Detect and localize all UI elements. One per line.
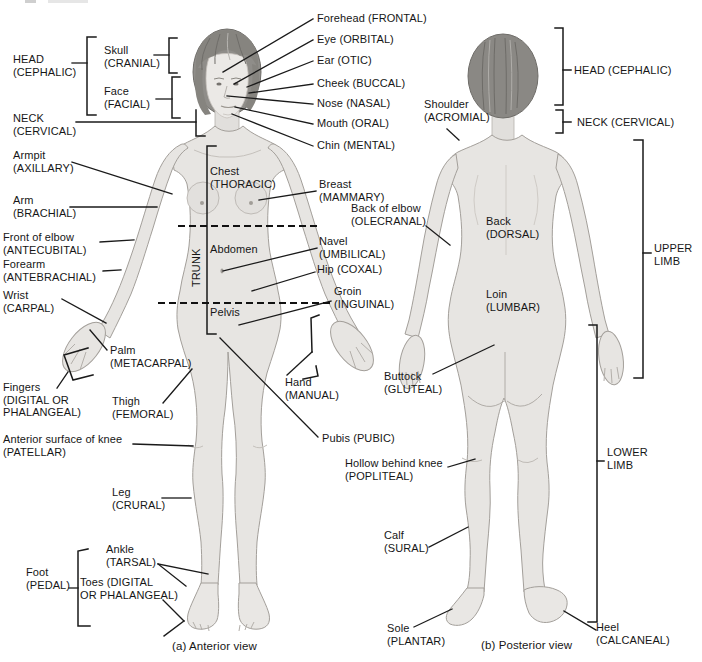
label-wrist-carpal: Wrist (CARPAL) — [3, 289, 54, 314]
label-armpit-axillary: Armpit (AXILLARY) — [13, 149, 74, 174]
label-trunk: TRUNK — [190, 249, 203, 287]
label-loin-lumbar: Loin (LUMBAR) — [486, 288, 540, 313]
label-neck-cervical: NECK (CERVICAL) — [13, 112, 76, 137]
label-chin-mental: Chin (MENTAL) — [317, 139, 395, 152]
label-upper-limb: UPPER LIMB — [654, 242, 692, 267]
label-navel-umbilical: Navel (UMBILICAL) — [319, 235, 386, 260]
trunk-divider-dashes — [158, 226, 332, 303]
label-fingers-digital: Fingers (DIGITAL OR PHALANGEAL) — [3, 381, 81, 419]
label-arm-brachial: Arm (BRACHIAL) — [13, 194, 76, 219]
label-skull-cranial: Skull (CRANIAL) — [104, 44, 160, 69]
label-hollow-behind-knee-popliteal: Hollow behind knee (POPLITEAL) — [345, 457, 443, 482]
label-thigh-femoral: Thigh (FEMORAL) — [112, 395, 173, 420]
label-eye-orbital: Eye (ORBITAL) — [317, 33, 394, 46]
label-lower-limb: LOWER LIMB — [607, 446, 648, 471]
label-back-of-elbow-olecranal: Back of elbow (OLECRANAL) — [351, 202, 426, 227]
label-hip-coxal: Hip (COXAL) — [317, 263, 382, 276]
label-pelvis: Pelvis — [210, 306, 240, 319]
label-pubis-pubic: Pubis (PUBIC) — [322, 432, 395, 445]
label-groin-inguinal: Groin (INGUINAL) — [334, 285, 394, 310]
label-leg-crural: Leg (CRURAL) — [112, 486, 165, 511]
label-forehead-frontal: Forehead (FRONTAL) — [317, 12, 427, 25]
label-nose-nasal: Nose (NASAL) — [317, 97, 390, 110]
caption-posterior-view: (b) Posterior view — [481, 639, 572, 652]
label-hand-manual: Hand (MANUAL) — [285, 376, 339, 401]
label-heel-calcaneal: Heel (CALCANEAL) — [596, 621, 670, 646]
label-calf-sural: Calf (SURAL) — [384, 529, 429, 554]
label-cheek-buccal: Cheek (BUCCAL) — [317, 77, 405, 90]
label-foot-pedal: Foot (PEDAL) — [26, 566, 70, 591]
label-front-of-elbow-antecubital: Front of elbow (ANTECUBITAL) — [3, 231, 87, 256]
label-ankle-tarsal: Ankle (TARSAL) — [106, 543, 156, 568]
label-chest-thoracic: Chest (THORACIC) — [210, 165, 276, 190]
label-mouth-oral: Mouth (ORAL) — [317, 117, 389, 130]
label-face-facial: Face (FACIAL) — [104, 85, 150, 110]
label-breast-mammary: Breast (MAMMARY) — [319, 178, 384, 203]
label-palm-metacarpal: Palm (METACARPAL) — [110, 344, 191, 369]
label-toes-digital: Toes (DIGITAL OR PHALANGEAL) — [80, 576, 178, 601]
label-ear-otic: Ear (OTIC) — [317, 54, 372, 67]
label-sole-plantar: Sole (PLANTAR) — [387, 622, 445, 647]
label-knee-patellar: Anterior surface of knee (PATELLAR) — [3, 433, 122, 458]
label-back-dorsal: Back (DORSAL) — [486, 215, 539, 240]
caption-anterior-view: (a) Anterior view — [172, 640, 257, 653]
label-abdomen: Abdomen — [210, 243, 258, 256]
label-head-cephalic: HEAD (CEPHALIC) — [13, 53, 76, 78]
anatomy-diagram: HEAD (CEPHALIC) Skull (CRANIAL) Face (FA… — [0, 0, 702, 662]
label-neck-cervical-right: NECK (CERVICAL) — [577, 116, 674, 129]
label-head-cephalic-right: HEAD (CEPHALIC) — [574, 64, 671, 77]
label-buttock-gluteal: Buttock (GLUTEAL) — [384, 370, 442, 395]
label-forearm-antebrachial: Forearm (ANTEBRACHIAL) — [3, 258, 96, 283]
label-shoulder-acromial: Shoulder (ACROMIAL) — [424, 98, 490, 123]
